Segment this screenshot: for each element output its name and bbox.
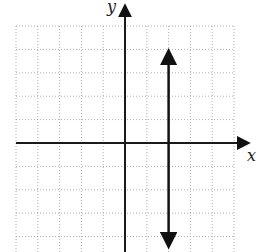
y-axis-label: y [106,0,117,16]
coordinate-plane: x y [0,0,259,252]
x-axis-label: x [247,146,256,165]
